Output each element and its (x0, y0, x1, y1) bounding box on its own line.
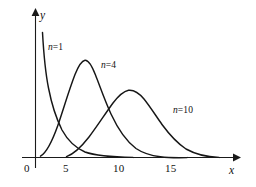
chi-square-density-figure: 0 5 10 15 x y n=1 n=4 n=10 (0, 0, 256, 187)
x-axis-arrow-icon (233, 154, 241, 162)
y-axis-arrow-icon (32, 8, 40, 16)
x-tick-label-5: 5 (63, 163, 69, 174)
x-tick-label-15: 15 (165, 163, 176, 174)
curve-label-n10-eq: =10 (178, 105, 193, 115)
plot-canvas (0, 0, 256, 187)
x-axis-label: x (229, 165, 234, 177)
x-tick-label-10: 10 (113, 163, 124, 174)
density-curve-n4 (41, 60, 188, 158)
density-curve-n10 (67, 90, 220, 157)
y-axis-label: y (40, 10, 45, 22)
curve-label-n10: n=10 (173, 106, 193, 116)
curve-label-n1: n=1 (48, 43, 63, 53)
y-axis (32, 8, 40, 168)
x-tick-label-0: 0 (24, 163, 30, 174)
curve-label-n1-eq: =1 (53, 42, 63, 52)
curve-label-n4-eq: =4 (106, 60, 116, 70)
curve-label-n4: n=4 (101, 61, 116, 71)
